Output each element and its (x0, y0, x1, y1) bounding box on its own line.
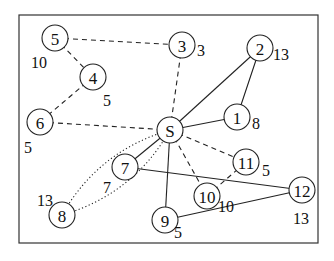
node-label: S (165, 122, 174, 141)
node-weight-2: 13 (273, 46, 289, 63)
node-label: 10 (199, 188, 216, 207)
node-label: 8 (58, 207, 67, 226)
node-5: 5 (42, 25, 68, 51)
edge-6-S (40, 122, 170, 130)
node-label: 2 (256, 40, 265, 59)
node-6: 6 (27, 109, 53, 135)
node-label: 6 (36, 114, 45, 133)
node-11: 11 (233, 149, 259, 175)
node-label: 4 (89, 69, 98, 88)
node-weight-5: 10 (31, 54, 47, 71)
node-weight-3: 3 (197, 42, 205, 59)
nodes-layer: S123456789101112 (27, 25, 315, 233)
node-label: 7 (121, 159, 130, 178)
node-10: 10 (194, 183, 220, 209)
node-label: 12 (294, 182, 311, 201)
node-4: 4 (80, 64, 106, 90)
node-label: 9 (161, 212, 170, 231)
node-label: 5 (51, 30, 60, 49)
node-3: 3 (169, 32, 195, 58)
node-weight-6: 5 (24, 139, 32, 156)
node-label: 11 (238, 154, 254, 173)
node-12: 12 (289, 177, 315, 203)
node-weight-9: 5 (174, 224, 182, 241)
node-2: 2 (247, 35, 273, 61)
node-weight-1: 8 (252, 115, 260, 132)
node-weight-4: 5 (103, 92, 111, 109)
node-7: 7 (112, 154, 138, 180)
edge-5-3 (55, 38, 182, 45)
node-weight-12: 13 (293, 210, 309, 227)
node-1: 1 (224, 104, 250, 130)
node-weight-8: 13 (37, 192, 53, 209)
node-weight-10: 10 (218, 198, 234, 215)
node-weight-11: 5 (262, 162, 270, 179)
graph-diagram: S123456789101112 81335105713510513 (0, 0, 334, 261)
node-weight-7: 7 (103, 179, 111, 196)
node-label: 3 (178, 37, 187, 56)
node-label: 1 (233, 109, 242, 128)
node-S: S (157, 117, 183, 143)
